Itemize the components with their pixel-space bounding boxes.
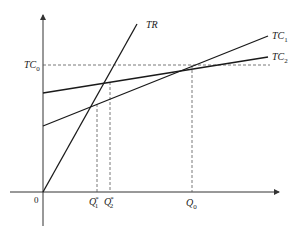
- origin-label: 0: [34, 195, 39, 205]
- q1-star-label: Q*1: [89, 195, 99, 210]
- q2-star-label: Q*2: [104, 195, 114, 210]
- tc2-label: TC2: [272, 51, 288, 65]
- tc1-label: TC1: [272, 30, 288, 44]
- q0-label: Q0: [186, 197, 197, 211]
- tc2-line: [43, 57, 268, 93]
- tr-line: [43, 24, 137, 192]
- tc0-label: TC0: [24, 59, 40, 73]
- tc1-line: [43, 36, 268, 126]
- cost-revenue-diagram: TR TC1 TC2 TC0 0 Q*1 Q*2 Q0: [0, 0, 291, 230]
- tr-label: TR: [146, 19, 158, 30]
